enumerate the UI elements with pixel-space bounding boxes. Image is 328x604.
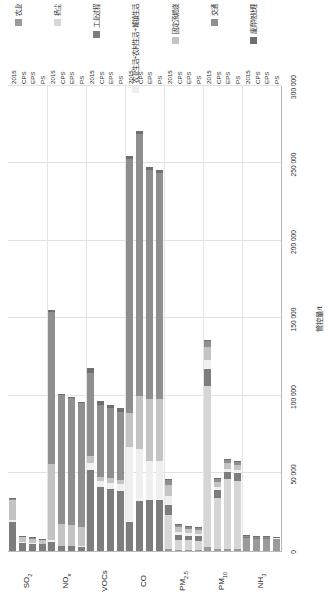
bar-segment [165, 480, 172, 485]
bar-segment [156, 173, 163, 399]
bar-segment [146, 399, 153, 461]
bar [117, 408, 124, 551]
bar-segment [195, 541, 202, 550]
bar [19, 537, 26, 551]
bar-segment [185, 527, 192, 529]
bar-segment [87, 368, 94, 373]
bar-segment [214, 487, 221, 490]
gridline [8, 85, 281, 86]
bar [165, 479, 172, 551]
bar [273, 537, 280, 551]
bar [107, 405, 114, 551]
bar-segment [224, 463, 231, 468]
x-axis-title: 管控量/t [313, 86, 324, 552]
bar-segment [224, 469, 231, 472]
bar-segment [58, 395, 65, 524]
bar-segment [87, 456, 94, 462]
legend-label: 固定源燃烧 [171, 4, 180, 34]
bar-segment [195, 534, 202, 537]
bar [175, 525, 182, 551]
bar [136, 131, 143, 551]
bar-segment [175, 540, 182, 550]
bar-segment [234, 470, 241, 473]
bar-segment [224, 460, 231, 463]
bar-segment [175, 527, 182, 532]
legend-label: 工业过程 [92, 4, 101, 28]
bar-segment [39, 545, 46, 552]
legend-swatch [132, 86, 139, 93]
category-label: NOx [61, 558, 72, 604]
bar [195, 527, 202, 551]
category-label: CO [139, 558, 148, 604]
category-label: PM10 [217, 558, 228, 604]
bar [9, 498, 16, 551]
bar-segment [165, 515, 172, 549]
bar-segment [165, 485, 172, 496]
legend-item: 废弃物处理 [249, 4, 258, 44]
bar-segment [39, 540, 46, 544]
legend-swatch [15, 19, 22, 26]
bar-segment [68, 397, 75, 398]
bar-segment [214, 479, 221, 482]
bar-segment [78, 547, 85, 551]
legend-item: 工业过程 [92, 4, 101, 38]
bar-segment [68, 546, 75, 551]
bar-segment [107, 483, 114, 489]
bar-segment [175, 525, 182, 527]
bar-segment [68, 398, 75, 525]
bar-segment [185, 536, 192, 540]
bar [185, 526, 192, 551]
bar-segment [136, 501, 143, 551]
bar-segment [214, 498, 221, 549]
bar-segment [9, 522, 16, 551]
bar-segment [136, 131, 143, 134]
bar-segment [195, 530, 202, 534]
bar-segment [165, 496, 172, 505]
bar-segment [204, 547, 211, 551]
x-tick-label: 50 000 [290, 464, 297, 484]
x-tick-label: 0 [290, 550, 297, 554]
legend-label: 废弃物处理 [249, 4, 258, 34]
bar-segment [165, 549, 172, 551]
bar [97, 401, 104, 551]
bar-segment [253, 537, 260, 538]
bar [214, 478, 221, 551]
plot-area [8, 86, 282, 552]
bar-segment [234, 462, 241, 465]
x-tick-label: 250 000 [290, 153, 297, 177]
bar-segment [204, 341, 211, 347]
bar-segment [58, 524, 65, 546]
bar-segment [136, 134, 143, 396]
bar [243, 536, 250, 551]
category-label: NH3 [256, 558, 267, 604]
x-tick-label: 100 000 [290, 385, 297, 409]
bar-segment [165, 479, 172, 480]
x-axis-tick-labels: 050 000100 000150 000200 000250 000300 0… [290, 86, 308, 552]
bar-segment [243, 538, 250, 551]
bar-segment [97, 405, 104, 476]
bar-segment [117, 412, 124, 480]
legend-label: 交通 [210, 4, 219, 16]
bar-segment [234, 461, 241, 462]
figure: SO2NOxVOCsCOPM2.5PM10NH3 2015CPSEPSPS201… [0, 0, 328, 604]
bar-segment [204, 369, 211, 386]
bar-segment [214, 482, 221, 487]
bar-segment [175, 532, 182, 535]
bar-segment [107, 405, 114, 409]
bar [39, 539, 46, 551]
category-label: SO2 [22, 558, 33, 604]
bar-segment [58, 546, 65, 547]
bar-segment [97, 487, 104, 551]
bar-segment [68, 546, 75, 547]
bar-segment [243, 536, 250, 537]
bar-segment [175, 535, 182, 540]
bar-segment [185, 550, 192, 551]
bar [126, 156, 133, 551]
bar-segment [214, 490, 221, 498]
bar-segment [126, 413, 133, 447]
bar [68, 397, 75, 551]
bar [48, 310, 55, 551]
bar-segment [78, 403, 85, 527]
bar-segment [126, 159, 133, 413]
bar-segment [175, 550, 182, 551]
